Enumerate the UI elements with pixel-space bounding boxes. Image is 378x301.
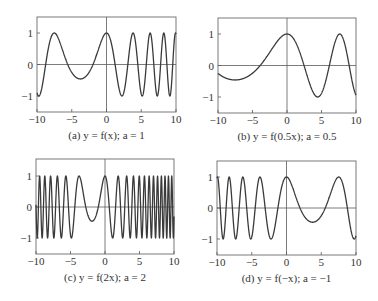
y-tick-label: 1 xyxy=(208,171,214,183)
x-tick-label: 0 xyxy=(102,255,108,267)
y-tick-label: 0 xyxy=(208,202,214,214)
y-tick-label: 1 xyxy=(27,170,33,182)
x-tick-label: −5 xyxy=(65,255,77,267)
x-tick-label: −10 xyxy=(27,255,45,267)
x-tick-label: −5 xyxy=(246,256,258,268)
x-tick-label: 10 xyxy=(351,114,363,126)
y-tick-label: −1 xyxy=(202,91,214,103)
x-tick-label: −10 xyxy=(28,113,46,125)
y-tick-label: −1 xyxy=(201,233,213,245)
panel-caption: (d) y = f(−x); a = −1 xyxy=(242,272,332,285)
x-tick-label: −10 xyxy=(208,256,226,268)
panel-caption: (c) y = f(2x); a = 2 xyxy=(64,271,146,284)
y-tick-label: 0 xyxy=(209,60,215,72)
panel-d: −10−50510−101(d) y = f(−x); a = −1 xyxy=(201,161,362,285)
x-tick-label: 0 xyxy=(104,113,110,125)
y-tick-label: −1 xyxy=(21,90,33,102)
x-tick-label: 10 xyxy=(169,255,181,267)
panel-a: −10−50510−101(a) y = f(x); a = 1 xyxy=(21,17,182,142)
y-tick-label: 0 xyxy=(28,59,34,71)
panel-caption: (a) y = f(x); a = 1 xyxy=(68,129,145,142)
x-tick-label: 5 xyxy=(137,255,143,267)
x-tick-label: −5 xyxy=(66,113,78,125)
x-tick-label: −10 xyxy=(209,114,227,126)
x-tick-label: 10 xyxy=(351,256,363,268)
figure: −10−50510−101(a) y = f(x); a = 1−10−5051… xyxy=(0,0,378,301)
y-tick-label: 1 xyxy=(28,27,34,39)
y-tick-label: 0 xyxy=(27,201,33,213)
x-tick-label: 0 xyxy=(284,256,290,268)
panel-b: −10−50510−101(b) y = f(0.5x); a = 0.5 xyxy=(202,18,362,143)
x-tick-label: 0 xyxy=(284,114,290,126)
y-tick-label: 1 xyxy=(209,28,215,40)
x-tick-label: 5 xyxy=(139,113,145,125)
x-tick-label: 5 xyxy=(319,256,325,268)
panel-caption: (b) y = f(0.5x); a = 0.5 xyxy=(237,130,337,143)
x-tick-label: 5 xyxy=(319,114,325,126)
y-tick-label: −1 xyxy=(20,232,32,244)
x-tick-label: −5 xyxy=(247,114,259,126)
panel-c: −10−50510−101(c) y = f(2x); a = 2 xyxy=(20,159,180,284)
x-tick-label: 10 xyxy=(171,113,183,125)
